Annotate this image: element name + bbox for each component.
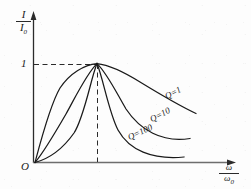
resonance-curve-figure [0, 0, 251, 189]
x-axis-label-numerator: ω [219, 163, 239, 172]
y-axis-label: I I0 [16, 9, 31, 36]
y-axis-label-numerator: I [16, 9, 31, 20]
origin-label: O [21, 161, 29, 172]
x-axis-label: ω ω0 [219, 163, 239, 186]
y-axis-arrowhead [31, 11, 37, 20]
y-axis-label-denominator: I0 [16, 22, 31, 36]
y-axis-tick-label-1: 1 [21, 58, 27, 69]
x-axis-label-denominator: ω0 [219, 174, 239, 186]
